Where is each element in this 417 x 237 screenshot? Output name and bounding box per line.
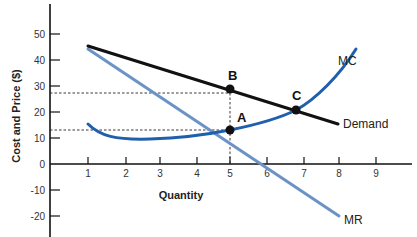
y-tick-label: -20 <box>31 211 46 222</box>
y-tick-label: 30 <box>34 81 46 92</box>
point-b-marker <box>226 85 235 94</box>
x-tick-labels: 1 2 3 4 5 6 7 8 9 <box>85 168 379 179</box>
point-b-label: B <box>228 68 237 83</box>
x-tick-label: 5 <box>227 168 233 179</box>
mr-label: MR <box>344 213 363 227</box>
x-tick-label: 8 <box>336 168 342 179</box>
y-tick-label: 20 <box>34 107 46 118</box>
y-tick-label: 10 <box>34 133 46 144</box>
x-axis-title: Quantity <box>159 189 204 201</box>
y-tick-label: 50 <box>34 29 46 40</box>
y-axis-title: Cost and Price ($) <box>10 69 22 163</box>
y-tick-labels: 50 40 30 20 10 0 -10 -20 <box>31 29 46 222</box>
x-tick-label: 1 <box>85 168 91 179</box>
y-tick-label: 40 <box>34 55 46 66</box>
x-tick-label: 9 <box>373 168 379 179</box>
x-ticks <box>88 157 376 164</box>
x-tick-label: 3 <box>157 168 163 179</box>
x-tick-label: 4 <box>194 168 200 179</box>
demand-label: Demand <box>343 117 388 131</box>
x-tick-label: 2 <box>123 168 129 179</box>
economics-chart: 50 40 30 20 10 0 -10 -20 1 2 3 4 5 6 7 8… <box>0 0 417 237</box>
point-c-label: C <box>292 88 302 103</box>
point-a-marker <box>226 126 235 135</box>
mc-curve <box>88 49 356 139</box>
point-c-marker <box>292 106 301 115</box>
point-a-label: A <box>237 110 247 125</box>
demand-curve <box>88 46 338 124</box>
y-tick-label: -10 <box>31 185 46 196</box>
reference-lines <box>50 93 230 164</box>
y-tick-label: 0 <box>39 159 45 170</box>
y-ticks <box>50 34 60 216</box>
mc-label: MC <box>338 54 357 68</box>
x-tick-label: 7 <box>301 168 307 179</box>
